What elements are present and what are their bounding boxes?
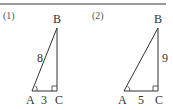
triangle-1 (32, 28, 57, 91)
angle-a-arc-1 (36, 86, 38, 91)
angle-a-arc-2 (128, 86, 131, 91)
vertex-a-1: A (26, 93, 35, 107)
vertex-c-1: C (55, 93, 63, 107)
hypotenuse-label-1: 8 (37, 51, 43, 65)
vertex-b-2: B (154, 12, 162, 26)
vertex-a-2: A (118, 93, 127, 107)
problem-2-number: (2) (92, 10, 104, 22)
problem-2: (2) B A C 9 5 (92, 10, 168, 107)
base-label-1: 3 (41, 93, 47, 107)
diagram-canvas: (1) B A C 8 3 (2) B A C 9 5 (0, 0, 173, 110)
right-angle-mark-1 (52, 86, 57, 91)
base-label-2: 5 (138, 93, 144, 107)
triangle-2 (124, 28, 158, 91)
problem-1: (1) B A C 8 3 (3, 10, 63, 107)
side-label-2: 9 (162, 51, 168, 65)
right-angle-mark-2 (153, 86, 158, 91)
problem-1-number: (1) (3, 10, 15, 22)
vertex-c-2: C (155, 93, 163, 107)
vertex-b-1: B (53, 12, 61, 26)
